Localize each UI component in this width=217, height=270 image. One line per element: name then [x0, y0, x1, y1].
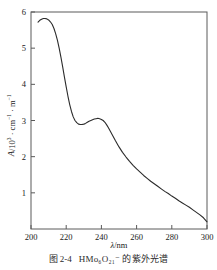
chart-frame [31, 12, 207, 229]
y-axis-title: A/103 · cm−1 · m−1 [6, 70, 17, 180]
x-axis-title: λ/nm [111, 240, 128, 250]
absorption-curve [38, 19, 207, 222]
y-tick-label: 6 [8, 8, 26, 17]
caption-number: 图 2-4 [49, 254, 72, 264]
y-tick-label: 1 [8, 189, 26, 198]
x-tick-label: 300 [201, 233, 214, 242]
y-axis-symbol: A [6, 151, 16, 156]
x-tick-label: 200 [25, 233, 38, 242]
y-tick-label: 5 [8, 44, 26, 53]
y-axis-unit: /103 · cm−1 · m−1 [6, 95, 16, 152]
figure-caption: 图 2-4HMo₆O₂₁⁻ 的紫外光谱 [0, 252, 217, 265]
caption-label: HMo₆O₂₁⁻ 的紫外光谱 [79, 254, 169, 264]
chart-plot-area: 123456 200220240260280300 λ/nm A/103 · c… [0, 0, 217, 246]
figure-container: 123456 200220240260280300 λ/nm A/103 · c… [0, 0, 217, 270]
x-axis-unit: /nm [114, 240, 127, 250]
x-tick-label: 260 [130, 233, 143, 242]
x-tick-label: 240 [95, 233, 108, 242]
x-tick-label: 280 [165, 233, 178, 242]
plot-frame-rect [31, 12, 207, 229]
y-axis-tick-marks [31, 12, 35, 193]
uv-spectrum-chart [0, 0, 217, 246]
x-tick-label: 220 [60, 233, 73, 242]
x-axis-tick-marks [31, 225, 207, 229]
